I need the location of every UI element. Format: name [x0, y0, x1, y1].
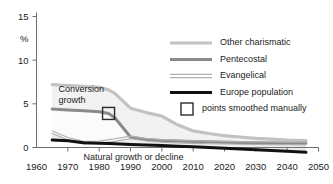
conversion-growth-label-line2: growth	[58, 95, 85, 105]
legend-label: points smoothed manually	[202, 103, 307, 113]
chart-container: 051015 % 1960197019801990200020102020203…	[0, 0, 333, 184]
x-tick-label: 1990	[120, 161, 141, 172]
chart-legend: Other charismaticPentecostalEvangelicalE…	[170, 37, 307, 115]
legend-item[interactable]: Evangelical	[170, 70, 266, 80]
legend-label: Evangelical	[220, 70, 266, 80]
x-tick-label: 2000	[151, 161, 172, 172]
x-tick-label: 1980	[89, 161, 110, 172]
y-axis-title: %	[20, 33, 29, 44]
legend-label: Pentecostal	[220, 54, 267, 64]
y-tick-label: 10	[18, 55, 29, 66]
y-tick-label: 0	[23, 142, 28, 153]
y-axis: 051015 %	[18, 11, 37, 153]
x-tick-label: 1970	[57, 161, 78, 172]
x-tick-labels: 1960197019801990200020102020203020402050	[26, 161, 329, 172]
x-tick-label: 2050	[308, 161, 329, 172]
x-tick-label: 1960	[26, 161, 47, 172]
natural-growth-label: Natural growth or decline	[84, 152, 184, 162]
y-tick-label: 5	[23, 98, 28, 109]
y-tick-marks	[33, 17, 37, 148]
legend-label: Other charismatic	[220, 37, 291, 47]
legend-label: Europe population	[220, 87, 293, 97]
x-tick-label: 2030	[245, 161, 266, 172]
legend-swatch-square-icon	[181, 103, 193, 115]
legend-item[interactable]: Other charismatic	[170, 37, 291, 47]
y-tick-label: 15	[18, 11, 29, 22]
x-tick-label: 2020	[214, 161, 235, 172]
population-growth-chart: 051015 % 1960197019801990200020102020203…	[0, 0, 333, 184]
conversion-growth-label-line1: Conversion	[58, 84, 104, 94]
legend-item[interactable]: points smoothed manually	[181, 103, 307, 115]
x-tick-label: 2040	[277, 161, 298, 172]
x-tick-label: 2010	[183, 161, 204, 172]
legend-item[interactable]: Pentecostal	[170, 54, 267, 64]
legend-item[interactable]: Europe population	[170, 87, 293, 97]
